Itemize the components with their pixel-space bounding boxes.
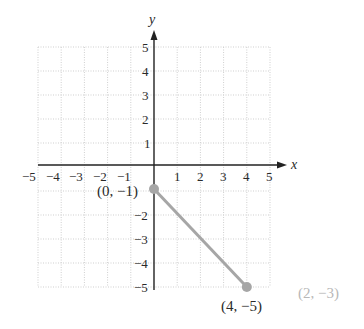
y-tick: −2 bbox=[134, 208, 148, 223]
x-axis-arrow-icon bbox=[277, 162, 287, 169]
coordinate-plane: x y −5 −4 −3 −2 −1 1 2 3 4 5 5 4 3 2 1 −… bbox=[0, 0, 364, 329]
y-tick: 2 bbox=[142, 112, 149, 127]
midpoint-label: (2, −3) bbox=[298, 285, 339, 302]
x-tick: 3 bbox=[220, 169, 227, 184]
y-axis-label: y bbox=[147, 12, 156, 27]
y-tick: −5 bbox=[134, 280, 148, 295]
x-tick: −5 bbox=[22, 169, 36, 184]
point-end bbox=[242, 282, 252, 292]
x-tick-labels: −5 −4 −3 −2 −1 1 2 3 4 5 bbox=[22, 169, 273, 184]
point-start bbox=[149, 184, 159, 194]
y-axis: y bbox=[147, 12, 158, 290]
y-tick: −4 bbox=[134, 256, 148, 271]
x-tick: −2 bbox=[93, 169, 107, 184]
x-tick: −4 bbox=[46, 169, 60, 184]
x-tick: −1 bbox=[117, 169, 131, 184]
y-tick: 3 bbox=[142, 88, 149, 103]
x-tick: −3 bbox=[69, 169, 83, 184]
point-end-label: (4, −5) bbox=[221, 298, 262, 315]
y-tick: −3 bbox=[134, 232, 148, 247]
point-start-label: (0, −1) bbox=[97, 183, 138, 200]
y-tick: 1 bbox=[144, 136, 151, 151]
x-tick: 4 bbox=[243, 169, 250, 184]
x-axis-label: x bbox=[290, 157, 298, 172]
y-tick: 4 bbox=[142, 64, 149, 79]
x-tick: 5 bbox=[266, 169, 273, 184]
x-tick: 2 bbox=[197, 169, 204, 184]
y-tick-labels: 5 4 3 2 1 −2 −3 −4 −5 bbox=[134, 40, 151, 295]
y-tick: 5 bbox=[142, 40, 149, 55]
y-axis-arrow-icon bbox=[151, 30, 158, 40]
x-tick: 1 bbox=[174, 169, 181, 184]
